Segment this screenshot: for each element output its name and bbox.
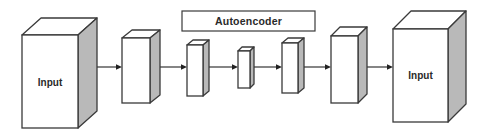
arrow-decoder-to-layer5 bbox=[304, 64, 331, 70]
cube-front-face bbox=[187, 45, 203, 96]
output-layer-block: Input bbox=[393, 11, 466, 122]
cube-side-face bbox=[78, 18, 97, 128]
input-layer-block: Input bbox=[22, 18, 97, 128]
autoencoder-label: Autoencoder bbox=[215, 15, 282, 27]
cube-side-face bbox=[150, 30, 160, 103]
cube-side-face bbox=[203, 40, 209, 96]
hidden-layer-5-block bbox=[331, 27, 367, 103]
cube-side-face bbox=[358, 27, 367, 103]
decoder-layer-block bbox=[282, 38, 304, 93]
output-label: Input bbox=[408, 70, 433, 81]
cube-side-face bbox=[448, 11, 466, 122]
cube-front-face bbox=[238, 51, 250, 88]
arrow-layer5-to-output bbox=[367, 64, 393, 70]
cube-side-face bbox=[298, 38, 304, 93]
autoencoder-diagram: Autoencoder Input bbox=[0, 0, 482, 136]
cube-front-face bbox=[331, 36, 358, 103]
cube-front-face bbox=[282, 43, 298, 93]
arrow-bottleneck-to-decoder bbox=[254, 64, 282, 70]
cube-front-face bbox=[122, 38, 150, 103]
arrow-layer1-to-encoder bbox=[160, 64, 187, 70]
encoder-layer-block bbox=[187, 40, 209, 96]
hidden-layer-1-block bbox=[122, 30, 160, 103]
arrow-encoder-to-bottleneck bbox=[209, 64, 238, 70]
autoencoder-group-label: Autoencoder bbox=[182, 11, 315, 31]
input-label: Input bbox=[38, 77, 63, 88]
bottleneck-layer-block bbox=[238, 47, 254, 88]
arrow-input-to-layer1 bbox=[97, 64, 122, 70]
